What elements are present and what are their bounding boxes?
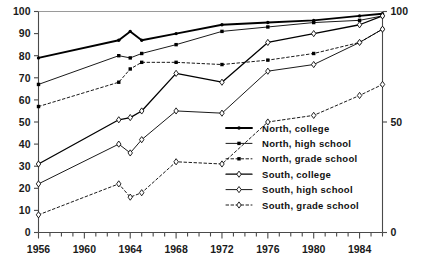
data-point-diamond	[357, 39, 361, 45]
data-point-dot	[37, 56, 40, 59]
y-axis-label-left: 50	[19, 116, 31, 128]
y-axis-label-left: 0	[25, 226, 31, 238]
legend-item-south_grade_school[interactable]: South, grade school	[226, 200, 359, 211]
data-point-diamond	[380, 26, 384, 32]
data-point-diamond	[36, 212, 40, 218]
data-point-dot	[129, 30, 132, 33]
y-axis-label-right: 100	[391, 5, 409, 17]
chart-figure: 0102030405060708090100050100195619601964…	[0, 0, 425, 267]
legend-label: North, college	[262, 123, 330, 134]
legend-item-north_grade_school[interactable]: North, grade school	[226, 153, 357, 164]
data-point-dot	[237, 126, 240, 129]
data-point-square	[37, 105, 40, 108]
y-axis-label-right: 0	[391, 226, 397, 238]
x-axis-label: 1984	[348, 243, 372, 255]
legend-label: North, grade school	[262, 153, 357, 164]
data-point-diamond	[117, 141, 121, 147]
data-point-dot	[220, 23, 223, 26]
y-axis-label-left: 100	[13, 5, 31, 17]
x-axis-label: 1968	[164, 243, 188, 255]
y-axis-label-left: 20	[19, 182, 31, 194]
data-point-square	[266, 58, 269, 61]
data-point-square	[140, 52, 143, 55]
x-axis-label: 1964	[119, 243, 143, 255]
legend-item-south_college[interactable]: South, college	[226, 169, 331, 180]
data-point-square	[140, 61, 143, 64]
data-point-square	[312, 21, 315, 24]
data-point-diamond	[357, 22, 361, 28]
data-point-diamond	[128, 114, 132, 120]
series-north_high_school	[37, 14, 384, 86]
data-point-diamond	[220, 110, 224, 116]
y-axis-label-left: 80	[19, 50, 31, 62]
data-point-diamond	[311, 112, 315, 118]
series-line-north_grade_school	[39, 29, 383, 106]
y-axis-label-left: 90	[19, 27, 31, 39]
data-point-square	[37, 83, 40, 86]
data-point-diamond	[139, 190, 143, 196]
data-point-dot	[117, 39, 120, 42]
data-point-diamond	[266, 68, 270, 74]
legend-item-south_high_school[interactable]: South, high school	[226, 184, 353, 195]
data-point-dot	[140, 39, 143, 42]
data-point-diamond	[237, 202, 241, 208]
data-point-dot	[358, 14, 361, 17]
data-point-square	[129, 56, 132, 59]
line-chart-canvas: 0102030405060708090100050100195619601964…	[0, 0, 425, 267]
legend-label: South, college	[262, 169, 331, 180]
data-point-square	[220, 63, 223, 66]
x-axis-label: 1972	[210, 243, 234, 255]
data-point-square	[129, 67, 132, 70]
data-point-diamond	[237, 187, 241, 193]
data-point-square	[266, 25, 269, 28]
x-axis-label: 1976	[256, 243, 280, 255]
series-north_college	[37, 12, 384, 60]
data-point-diamond	[174, 159, 178, 165]
data-point-diamond	[117, 117, 121, 123]
series-south_grade_school	[36, 81, 384, 218]
y-axis-label-left: 10	[19, 204, 31, 216]
data-point-diamond	[380, 81, 384, 87]
data-point-diamond	[237, 171, 241, 177]
data-point-square	[117, 81, 120, 84]
y-axis-label-left: 60	[19, 94, 31, 106]
series-line-north_college	[39, 14, 383, 58]
y-axis-label-right: 50	[391, 116, 403, 128]
data-point-diamond	[220, 161, 224, 167]
x-axis-label: 1960	[73, 243, 97, 255]
data-point-diamond	[357, 92, 361, 98]
data-point-square	[117, 54, 120, 57]
x-axis-label: 1980	[302, 243, 326, 255]
data-point-dot	[174, 32, 177, 35]
data-point-diamond	[174, 108, 178, 114]
data-point-square	[220, 30, 223, 33]
data-point-square	[174, 43, 177, 46]
data-point-diamond	[311, 31, 315, 37]
legend-label: South, grade school	[262, 200, 359, 211]
data-point-diamond	[311, 61, 315, 67]
data-point-square	[237, 142, 240, 145]
series-line-south_grade_school	[39, 84, 383, 214]
y-axis-label-left: 30	[19, 160, 31, 172]
data-point-diamond	[36, 181, 40, 187]
data-point-dot	[266, 21, 269, 24]
legend-label: South, high school	[262, 184, 353, 195]
legend-item-north_high_school[interactable]: North, high school	[226, 138, 351, 149]
data-point-square	[312, 52, 315, 55]
series-north_grade_school	[37, 27, 384, 108]
legend-label: North, high school	[262, 138, 351, 149]
x-axis-label: 1956	[27, 243, 51, 255]
data-point-square	[237, 157, 240, 160]
y-axis-label-left: 70	[19, 72, 31, 84]
data-point-diamond	[117, 181, 121, 187]
legend-item-north_college[interactable]: North, college	[226, 123, 330, 134]
data-point-square	[174, 61, 177, 64]
y-axis-label-left: 40	[19, 138, 31, 150]
